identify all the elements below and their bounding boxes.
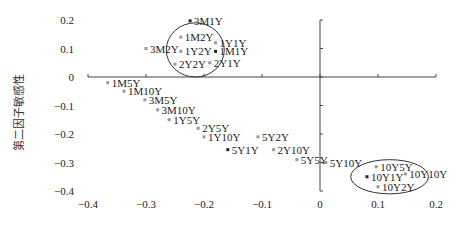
data-point-label: 5Y10Y: [330, 157, 362, 169]
data-point-label: 1Y2Y: [185, 45, 212, 57]
x-tick-labels: −0.4−0.3−0.2−0.100.10.2: [78, 198, 443, 210]
data-point-marker: [197, 127, 200, 130]
data-point-marker: [324, 161, 327, 164]
data-point-label: 2Y2Y: [179, 58, 206, 70]
data-point-label: 3M2Y: [150, 43, 179, 55]
data-point-marker: [106, 81, 109, 84]
data-point-marker: [226, 148, 229, 151]
data-point-marker: [122, 90, 125, 93]
x-tick-label: −0.2: [194, 198, 214, 210]
x-tick-label: 0.1: [371, 198, 385, 210]
data-point-marker: [377, 185, 380, 188]
data-point-marker: [179, 36, 182, 39]
data-point-marker: [174, 63, 177, 66]
data-point-label: 5Y1Y: [232, 144, 259, 156]
data-point-marker: [365, 175, 368, 178]
y-tick-label: 0.1: [60, 43, 74, 55]
data-point-label: 1M1Y: [220, 45, 249, 57]
y-tick-label: −0.2: [54, 128, 74, 140]
data-point-marker: [156, 108, 159, 111]
data-point-marker: [203, 135, 206, 138]
y-tick-label: −0.4: [54, 185, 74, 197]
data-point-marker: [272, 148, 275, 151]
data-point-marker: [189, 19, 192, 22]
data-point-label: 10Y2Y: [382, 181, 414, 193]
data-point-label: 3M1Y: [194, 15, 223, 27]
y-axis-label: 第二因子敏感性: [12, 74, 25, 151]
data-point-marker: [168, 118, 171, 121]
y-tick-label: 0.2: [60, 14, 74, 26]
data-point-marker: [214, 41, 217, 44]
data-point-marker: [214, 50, 217, 53]
data-point-marker: [404, 172, 407, 175]
x-tick-label: 0: [317, 198, 323, 210]
data-point-marker: [256, 135, 259, 138]
data-point-marker: [295, 158, 298, 161]
data-point-label: 10Y10Y: [409, 168, 447, 180]
data-point-label: 1M2Y: [185, 31, 214, 43]
data-points: 3M1Y1M2Y1Y1Y3M2Y1Y2Y1M1Y2Y2Y2Y1Y1M5Y1M10…: [106, 15, 447, 193]
x-tick-label: −0.4: [78, 198, 98, 210]
data-point-label: 5Y2Y: [262, 131, 289, 143]
data-point-marker: [179, 50, 182, 53]
x-tick-label: −0.3: [136, 198, 156, 210]
y-tick-label: 0: [69, 71, 75, 83]
x-tick-label: −0.1: [252, 198, 272, 210]
y-tick-label: −0.3: [54, 157, 74, 169]
y-tick-label: −0.1: [54, 100, 74, 112]
scatter-chart: 0.20.10−0.1−0.2−0.3−0.4 −0.4−0.3−0.2−0.1…: [0, 0, 464, 227]
data-point-marker: [375, 165, 378, 168]
x-tick-label: 0.2: [429, 198, 443, 210]
data-point-label: 1Y5Y: [173, 114, 200, 126]
data-point-label: 5Y5Y: [301, 154, 328, 166]
data-point-label: 1Y10Y: [208, 131, 240, 143]
data-point-label: 2Y1Y: [214, 57, 241, 69]
data-point-marker: [143, 98, 146, 101]
y-tick-labels: 0.20.10−0.1−0.2−0.3−0.4: [54, 14, 74, 197]
data-point-marker: [208, 61, 211, 64]
data-point-marker: [145, 47, 148, 50]
